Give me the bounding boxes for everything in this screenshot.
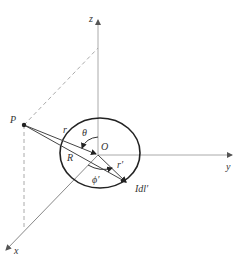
magnetic-field-current-loop-diagram: z y x P O r R r′ θ ϕ′ Idl′	[0, 0, 246, 260]
x-axis	[6, 155, 98, 250]
r-prime-label: r′	[117, 159, 124, 170]
theta-label: θ	[82, 127, 87, 138]
current-element-label: Idl′	[134, 183, 149, 194]
dashed-projection-up	[24, 48, 98, 125]
theta-arc	[82, 137, 98, 148]
phi-prime-label: ϕ′	[92, 174, 100, 185]
point-P-label: P	[9, 114, 16, 125]
origin-label: O	[101, 141, 108, 152]
point-P	[22, 123, 26, 127]
R-label: R	[66, 152, 73, 163]
R-vector	[24, 125, 126, 182]
r-label: r	[63, 124, 67, 135]
z-axis-label: z	[88, 13, 93, 24]
x-axis-label: x	[13, 245, 19, 256]
y-axis-label: y	[225, 161, 231, 172]
